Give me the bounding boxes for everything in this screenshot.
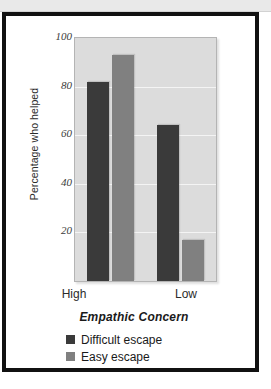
legend-swatch-icon [66,335,75,344]
bar-easy-high [112,55,134,281]
x-tick-label-low: Low [151,287,221,301]
bar-difficult-low [157,125,179,281]
plot-area [74,37,217,282]
bar-easy-low [182,240,204,281]
figure-frame-border: 100 80 60 40 20 Percentage who helped [2,12,259,372]
y-tick-label: 20 [38,225,72,236]
x-tick-label-high: High [39,287,109,301]
figure-page: 100 80 60 40 20 Percentage who helped [0,0,271,389]
chart-legend: Difficult escape Easy escape [66,332,226,366]
y-tick-label: 80 [38,80,72,91]
legend-swatch-icon [66,352,75,361]
legend-item-label: Easy escape [81,351,150,363]
bar-difficult-high [87,82,109,281]
y-axis-title: Percentage who helped [28,69,40,219]
y-tick-label: 60 [38,128,72,139]
y-tick-label: 40 [38,177,72,188]
legend-item-difficult-escape: Difficult escape [66,332,226,347]
y-tick-label: 100 [38,31,72,42]
page-header-strip [0,0,271,12]
bar-chart: 100 80 60 40 20 Percentage who helped [6,16,255,368]
figure-inner: 100 80 60 40 20 Percentage who helped [6,16,255,368]
legend-item-easy-escape: Easy escape [66,349,226,364]
legend-item-label: Difficult escape [81,334,162,346]
x-axis-title: Empathic Concern [34,310,234,324]
